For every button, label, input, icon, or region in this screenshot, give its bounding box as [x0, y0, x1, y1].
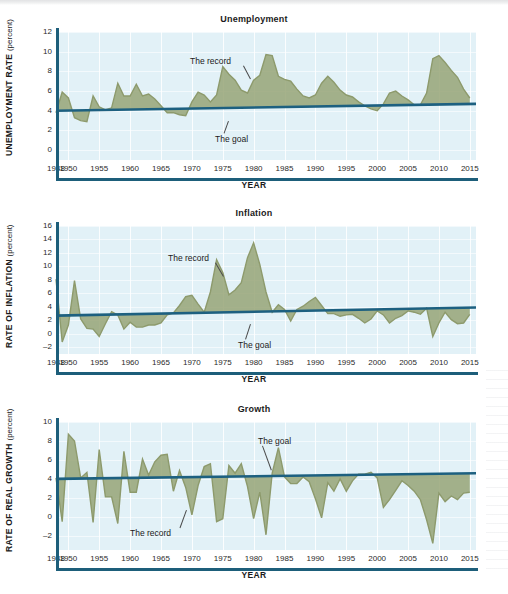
x-axis-tick-label: 1985 [269, 164, 301, 173]
y-axis-label-unemployment: UNEMPLOYMENT RATE (percent) [4, 19, 14, 156]
x-axis-tick-label: 1970 [176, 358, 208, 367]
y-axis-tick-label: 14 [26, 235, 52, 243]
x-axis-tick-label: 2015 [454, 358, 486, 367]
x-axis-line [56, 178, 478, 181]
chart-panel-inflation: Inflation 1614121086420–2 19481950195519… [0, 208, 508, 398]
y-axis-tick-label: 2 [26, 126, 52, 134]
y-axis-tick-label: 6 [26, 456, 52, 464]
y-axis-tick-label: 4 [26, 107, 52, 115]
y-axis-tick-label: 6 [26, 289, 52, 297]
y-axis-tick-label: 8 [26, 276, 52, 284]
x-axis-line [56, 568, 478, 571]
chart-title-unemployment: Unemployment [0, 14, 508, 24]
x-axis-tick-label: 1995 [330, 358, 362, 367]
chart-title-inflation: Inflation [0, 208, 508, 218]
y-axis-label-inflation: RATE OF INFLATION (percent) [4, 224, 14, 348]
y-axis-unit-text: (percent) [5, 224, 14, 256]
x-axis-tick-label: 1985 [269, 358, 301, 367]
y-axis-tick-label: 2 [26, 494, 52, 502]
x-axis-tick-label: 1960 [114, 554, 146, 563]
x-axis-tick-label: 2000 [361, 164, 393, 173]
y-axis-unit-text: (percent) [5, 409, 14, 441]
x-axis-tick-label: 1960 [114, 358, 146, 367]
scan-edge-top [0, 0, 508, 5]
series-layer-inflation [56, 226, 476, 354]
x-axis-tick-label: 1980 [238, 554, 270, 563]
x-axis-tick-label: 2000 [361, 358, 393, 367]
y-axis-ticks-unemployment: 121086420 [22, 14, 52, 184]
x-axis-tick-label: 1970 [176, 554, 208, 563]
x-axis-tick-label: 2005 [392, 358, 424, 367]
y-axis-tick-label: 2 [26, 316, 52, 324]
annotation-goal-growth: The goal [258, 436, 291, 446]
y-axis-tick-label: 12 [26, 249, 52, 257]
y-axis-tick-label: –2 [26, 343, 52, 351]
x-axis-tick-label: 1990 [299, 358, 331, 367]
x-axis-tick-label: 2015 [454, 164, 486, 173]
y-axis-tick-label: 6 [26, 87, 52, 95]
x-axis-label-growth: YEAR [0, 570, 508, 580]
y-axis-tick-label: 4 [26, 303, 52, 311]
x-axis-tick-label: 1980 [238, 358, 270, 367]
x-axis-tick-label: 1995 [330, 554, 362, 563]
y-axis-label-text: RATE OF INFLATION [4, 259, 14, 348]
x-axis-tick-label: 1955 [83, 554, 115, 563]
x-axis-tick-label: 2010 [423, 164, 455, 173]
x-axis-tick-label: 1970 [176, 164, 208, 173]
y-axis-tick-label: 4 [26, 475, 52, 483]
annotation-goal-unemployment: The goal [215, 134, 248, 144]
y-axis-unit-text: (percent) [5, 19, 14, 51]
y-axis-tick-label: 10 [26, 48, 52, 56]
y-axis-line [56, 418, 59, 568]
y-axis-tick-label: 0 [26, 330, 52, 338]
y-axis-tick-label: 10 [26, 418, 52, 426]
y-axis-tick-label: 0 [26, 146, 52, 154]
x-axis-tick-label: 1955 [83, 358, 115, 367]
y-axis-label-text: UNEMPLOYMENT RATE [4, 54, 14, 156]
x-axis-line [56, 372, 478, 375]
x-axis-tick-label: 1975 [207, 554, 239, 563]
y-axis-tick-label: 8 [26, 67, 52, 75]
x-axis-tick-label: 1995 [330, 164, 362, 173]
x-axis-tick-label: 1965 [145, 164, 177, 173]
y-axis-tick-label: 0 [26, 513, 52, 521]
y-axis-label-text: RATE OF REAL GROWTH [4, 443, 14, 552]
x-axis-tick-label: 1975 [207, 164, 239, 173]
plot-area-unemployment [56, 32, 476, 160]
x-axis-tick-label: 2005 [392, 164, 424, 173]
annotation-goal-inflation: The goal [238, 340, 271, 350]
x-axis-tick-label: 1960 [114, 164, 146, 173]
y-axis-tick-label: 12 [26, 28, 52, 36]
y-axis-label-growth: RATE OF REAL GROWTH (percent) [4, 409, 14, 552]
plot-area-inflation [56, 226, 476, 354]
x-axis-tick-label: 2010 [423, 554, 455, 563]
series-layer-unemployment [56, 32, 476, 160]
x-axis-tick-label: 1990 [299, 164, 331, 173]
x-axis-tick-label: 1965 [145, 554, 177, 563]
x-axis-tick-label: 2015 [454, 554, 486, 563]
x-axis-tick-label: 1965 [145, 358, 177, 367]
x-axis-label-unemployment: YEAR [0, 180, 508, 190]
x-axis-tick-label: 1990 [299, 554, 331, 563]
x-axis-tick-label: 2010 [423, 358, 455, 367]
y-axis-tick-label: 16 [26, 222, 52, 230]
y-axis-tick-label: –2 [26, 532, 52, 540]
y-axis-ticks-growth: 1086420–2 [22, 404, 52, 574]
chart-panel-unemployment: Unemployment 121086420 19481950195519601… [0, 14, 508, 204]
x-axis-label-inflation: YEAR [0, 374, 508, 384]
x-axis-tick-label: 2000 [361, 554, 393, 563]
x-axis-tick-label: 1985 [269, 554, 301, 563]
x-axis-tick-label: 1955 [83, 164, 115, 173]
annotation-record-unemployment: The record [190, 56, 231, 66]
y-axis-line [56, 222, 59, 372]
chart-title-growth: Growth [0, 404, 508, 414]
chart-panel-growth: Growth 1086420–2 19481950195519601965197… [0, 404, 508, 594]
x-axis-tick-label: 2005 [392, 554, 424, 563]
y-axis-tick-label: 10 [26, 262, 52, 270]
x-axis-tick-label: 1975 [207, 358, 239, 367]
y-axis-ticks-inflation: 1614121086420–2 [22, 208, 52, 378]
record-area-fill [56, 243, 470, 342]
x-axis-tick-label: 1980 [238, 164, 270, 173]
annotation-record-growth: The record [130, 528, 171, 538]
annotation-record-inflation: The record [168, 253, 209, 263]
